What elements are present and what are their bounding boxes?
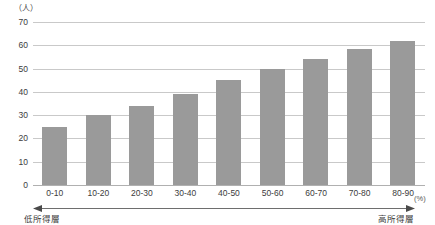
bar	[390, 41, 415, 185]
x-tick-label: 60-70	[294, 189, 338, 198]
bar	[129, 106, 154, 185]
x-tick-label: 50-60	[251, 189, 295, 198]
y-tick-label: 0	[0, 181, 28, 190]
x-tick-label: 0-10	[33, 189, 77, 198]
bar	[303, 59, 328, 185]
y-tick-label: 30	[0, 111, 28, 120]
bar-slot	[338, 22, 382, 185]
bar	[260, 69, 285, 185]
y-tick-label: 70	[0, 18, 28, 27]
income-axis-arrow	[33, 203, 415, 214]
x-axis-unit-label: (%)	[414, 194, 426, 203]
bar	[216, 80, 241, 185]
bar-slot	[294, 22, 338, 185]
y-tick-label: 40	[0, 88, 28, 97]
plot-area	[33, 22, 425, 185]
y-tick-label: 10	[0, 158, 28, 167]
x-tick-label: 40-50	[207, 189, 251, 198]
bar-slot	[381, 22, 425, 185]
bar-slot	[207, 22, 251, 185]
x-tick-label: 20-30	[120, 189, 164, 198]
bar	[86, 115, 111, 185]
gridline-0	[33, 185, 425, 186]
x-tick-label: 70-80	[338, 189, 382, 198]
x-tick-label: 30-40	[164, 189, 208, 198]
bar-slot	[164, 22, 208, 185]
bar	[42, 127, 67, 185]
bar	[173, 94, 198, 185]
y-tick-label: 20	[0, 134, 28, 143]
bar-slot	[120, 22, 164, 185]
bar-slot	[77, 22, 121, 185]
low-income-label: 低所得層	[24, 212, 60, 224]
bar-series	[33, 22, 425, 185]
y-tick-label: 60	[0, 41, 28, 50]
bar	[347, 49, 372, 185]
bar-slot	[251, 22, 295, 185]
x-tick-label: 10-20	[77, 189, 121, 198]
bar-slot	[33, 22, 77, 185]
bar-chart: （人） 010203040506070 0-1010-2020-3030-404…	[0, 0, 435, 225]
high-income-label: 高所得層	[378, 212, 414, 224]
y-axis-unit-label: （人）	[14, 2, 38, 13]
y-tick-label: 50	[0, 65, 28, 74]
